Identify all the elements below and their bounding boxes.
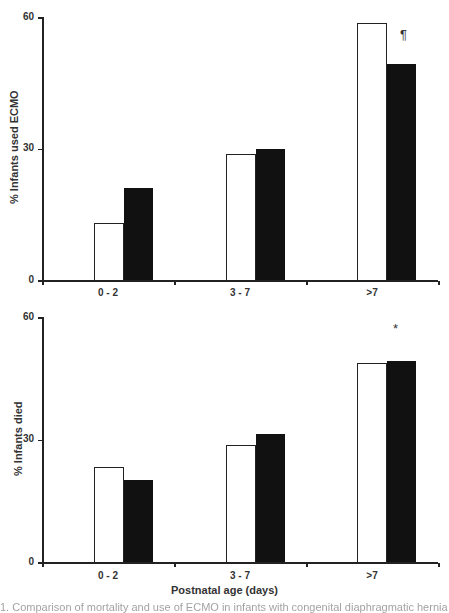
bar-black-2 — [387, 361, 417, 562]
x-axis-title: Postnatal age (days) — [0, 584, 449, 596]
y-axis-line — [42, 317, 44, 563]
significance-mark-asterisk: * — [393, 321, 398, 336]
chart-mortality: % Infants died 60 30 0 0 - 2 3 - 7 >7 * … — [0, 0, 449, 600]
bar-white-0 — [94, 467, 124, 562]
x-category-gt7: >7 — [342, 570, 402, 581]
bar-white-2 — [357, 363, 387, 562]
x-axis-line — [42, 562, 438, 564]
x-tick — [438, 563, 440, 567]
x-tick — [306, 563, 308, 567]
x-category-3-7: 3 - 7 — [210, 570, 270, 581]
bar-black-1 — [256, 434, 286, 562]
y-tick — [38, 440, 42, 442]
figure-caption-fragment: 1. Comparison of mortality and use of EC… — [0, 601, 449, 613]
y-tick — [38, 317, 42, 319]
bar-white-1 — [226, 445, 256, 562]
x-category-0-2: 0 - 2 — [78, 570, 138, 581]
x-tick — [174, 563, 176, 567]
x-tick — [42, 563, 44, 567]
bar-black-0 — [124, 480, 154, 562]
y-tick-label-30: 30 — [14, 433, 34, 444]
y-tick-label-0: 0 — [14, 556, 34, 567]
y-tick-label-60: 60 — [14, 311, 34, 322]
